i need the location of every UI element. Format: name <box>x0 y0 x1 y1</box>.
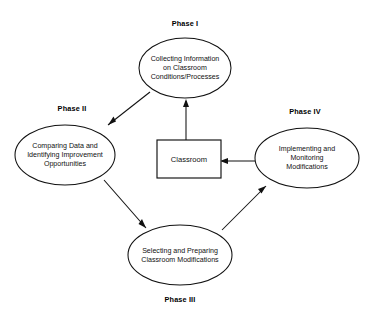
node-phase-4[interactable]: Implementing and Monitoring Modification… <box>255 128 359 188</box>
phase-2-label: Phase II <box>58 104 87 113</box>
classroom-box-label: Classroom <box>171 155 207 164</box>
phase-2-line-2: Identifying Improvement <box>27 151 103 159</box>
phase-1-line-2: on Classroom <box>163 64 207 72</box>
phase-2-line-3: Opportunities <box>44 160 87 168</box>
phase-3-line-1: Selecting and Preparing <box>142 247 218 255</box>
phase-1-line-1: Collecting Information <box>151 55 220 63</box>
arrow-phase1-to-phase2 <box>108 92 150 125</box>
phase-2-line-1: Comparing Data and <box>32 142 98 150</box>
arrow-phase3-to-phase4 <box>222 186 266 230</box>
node-phase-2[interactable]: Comparing Data and Identifying Improveme… <box>15 125 115 185</box>
phase-4-line-1: Implementing and <box>279 145 335 153</box>
phase-1-label: Phase I <box>172 19 199 28</box>
node-classroom-box[interactable]: Classroom <box>157 140 221 178</box>
phase-3-line-2: Classroom Modifications <box>141 256 219 264</box>
node-phase-3[interactable]: Selecting and Preparing Classroom Modifi… <box>128 225 232 285</box>
diagram-canvas: Collecting Information on Classroom Cond… <box>0 0 373 323</box>
arrow-phase4-to-classroom <box>220 158 257 164</box>
phase-cycle-diagram: Collecting Information on Classroom Cond… <box>0 0 373 323</box>
phase-4-line-2: Monitoring <box>290 154 323 162</box>
arrow-phase2-to-phase3 <box>104 180 146 228</box>
phase-4-label: Phase IV <box>289 107 321 116</box>
phase-1-line-3: Conditions/Processes <box>151 73 220 81</box>
arrow-classroom-to-phase1 <box>183 99 189 140</box>
phase-3-label: Phase III <box>165 295 196 304</box>
phase-4-line-3: Modifications <box>286 163 328 171</box>
node-phase-1[interactable]: Collecting Information on Classroom Cond… <box>139 38 231 98</box>
phase-3-ellipse[interactable] <box>128 225 232 285</box>
